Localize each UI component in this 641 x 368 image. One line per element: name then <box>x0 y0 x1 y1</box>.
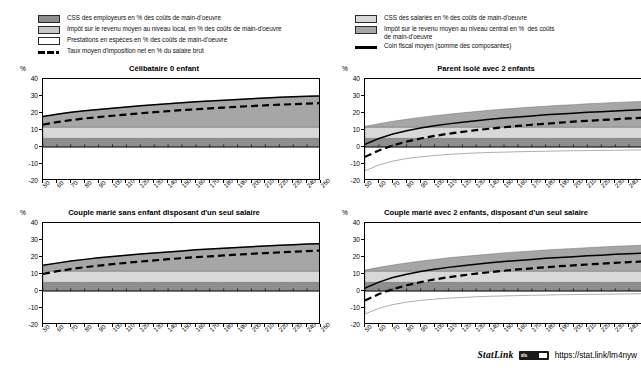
y-tick-label: -10 <box>344 304 360 311</box>
legend-item-employer-ssc: CSS des employeurs en % des coûts de mai… <box>38 14 338 24</box>
statlink-xls-icon: xls <box>519 351 549 360</box>
legend-label-net-average-tax-rate: Taux moyen d'imposition net en % du sala… <box>67 47 204 55</box>
statlink-word: StatLink <box>477 350 513 360</box>
plot-area <box>42 78 320 180</box>
panel-couple-marie-sans-enfant: Couple marié sans enfant disposant d'un … <box>4 208 326 364</box>
area-employee-ssc <box>365 127 641 138</box>
legend-label-employer-ssc: CSS des employeurs en % des coûts de mai… <box>67 14 221 22</box>
y-tick-label: 10 <box>22 126 38 133</box>
legend-item-local-income-tax: Impôt sur le revenu moyen au niveau loca… <box>38 25 338 35</box>
statlink-url[interactable]: https://stat.link/lm4nyw <box>555 351 637 360</box>
y-tick-label: 40 <box>22 75 38 82</box>
legend-swatch-cash-benefits <box>38 37 60 45</box>
y-tick-label: 20 <box>344 109 360 116</box>
y-axis-unit: % <box>342 209 348 216</box>
legend-swatch-local-income-tax <box>38 26 60 34</box>
y-axis-unit: % <box>20 65 26 72</box>
chart-legend: CSS des employeurs en % des coûts de mai… <box>0 14 641 62</box>
x-tick-label: 50 <box>363 323 373 333</box>
y-tick-label: 30 <box>344 92 360 99</box>
panel-parent-isole-2-enfants: Parent isolé avec 2 enfants%-20-10010203… <box>330 64 641 220</box>
legend-swatch-employer-ssc <box>38 15 60 23</box>
statlink-badge-text: xls <box>521 352 527 358</box>
panel-title: Couple marié avec 2 enfants, disposant d… <box>330 208 641 217</box>
figure-root: CSS des employeurs en % des coûts de mai… <box>0 0 641 368</box>
legend-label-local-income-tax: Impôt sur le revenu moyen au niveau loca… <box>67 25 282 33</box>
y-tick-label: 40 <box>22 219 38 226</box>
legend-label-average-tax-wedge: Coin fiscal moyen (somme des composantes… <box>384 42 511 50</box>
y-tick-label: 30 <box>22 92 38 99</box>
area-central-income-tax <box>365 101 641 127</box>
legend-swatch-central-income-tax <box>355 26 377 34</box>
y-tick-label: 0 <box>344 143 360 150</box>
y-tick-label: -20 <box>22 177 38 184</box>
y-tick-label: -10 <box>22 304 38 311</box>
y-tick-label: 0 <box>344 287 360 294</box>
legend-swatch-employee-ssc <box>355 15 377 23</box>
y-axis-unit: % <box>20 209 26 216</box>
area-employee-ssc <box>365 271 641 282</box>
legend-item-average-tax-wedge: Coin fiscal moyen (somme des composantes… <box>355 42 641 52</box>
y-tick-label: -10 <box>22 160 38 167</box>
legend-label-cash-benefits: Prestations en espèces en % des coûts de… <box>67 36 227 44</box>
y-tick-label: -10 <box>344 160 360 167</box>
legend-column-left: CSS des employeurs en % des coûts de mai… <box>38 14 338 58</box>
area-cash-benefits <box>365 291 641 314</box>
y-tick-label: 0 <box>22 287 38 294</box>
plot-area <box>42 222 320 324</box>
y-tick-label: 30 <box>22 236 38 243</box>
legend-column-right: CSS des salariés en % des coûts de main-… <box>355 14 641 53</box>
legend-item-net-average-tax-rate: Taux moyen d'imposition net en % du sala… <box>38 47 338 57</box>
plot-area <box>364 78 641 180</box>
area-central-income-tax <box>365 245 641 271</box>
x-tick-label: 50 <box>41 179 51 189</box>
panel-title: Couple marié sans enfant disposant d'un … <box>8 208 320 217</box>
y-tick-label: 30 <box>344 236 360 243</box>
y-tick-label: 20 <box>22 253 38 260</box>
legend-item-central-income-tax: Impôt sur le revenu moyen au niveau cent… <box>355 25 641 41</box>
y-tick-label: 0 <box>22 143 38 150</box>
legend-dashed-line-net-average-tax-rate <box>38 48 60 56</box>
plot-area <box>364 222 641 324</box>
y-tick-label: 40 <box>344 219 360 226</box>
y-tick-label: 10 <box>344 270 360 277</box>
x-tick-label: 50 <box>41 323 51 333</box>
y-tick-label: 10 <box>22 270 38 277</box>
area-employee-ssc <box>43 271 320 282</box>
y-axis-unit: % <box>342 65 348 72</box>
legend-solid-line-average-tax-wedge <box>355 43 377 51</box>
legend-label-central-income-tax: Impôt sur le revenu moyen au niveau cent… <box>384 25 554 41</box>
y-tick-label: 20 <box>22 109 38 116</box>
statlink[interactable]: StatLink xls https://stat.link/lm4nyw <box>477 350 637 360</box>
legend-item-employee-ssc: CSS des salariés en % des coûts de main-… <box>355 14 641 24</box>
area-cash-benefits <box>365 147 641 171</box>
legend-item-cash-benefits: Prestations en espèces en % des coûts de… <box>38 36 338 46</box>
y-tick-label: -20 <box>344 177 360 184</box>
legend-label-employee-ssc: CSS des salariés en % des coûts de main-… <box>384 14 527 22</box>
panel-title: Célibataire 0 enfant <box>8 64 320 73</box>
y-tick-label: 20 <box>344 253 360 260</box>
y-tick-label: 10 <box>344 126 360 133</box>
panel-celibataire-0-enfant: Célibataire 0 enfant%-20-100102030405060… <box>4 64 326 220</box>
panel-title: Parent isolé avec 2 enfants <box>330 64 641 73</box>
area-employee-ssc <box>43 127 320 138</box>
panel-couple-marie-2-enfants: Couple marié avec 2 enfants, disposant d… <box>330 208 641 364</box>
y-tick-label: -20 <box>22 321 38 328</box>
area-central-income-tax <box>43 244 320 272</box>
y-tick-label: -20 <box>344 321 360 328</box>
x-tick-label: 50 <box>363 179 373 189</box>
y-tick-label: 40 <box>344 75 360 82</box>
